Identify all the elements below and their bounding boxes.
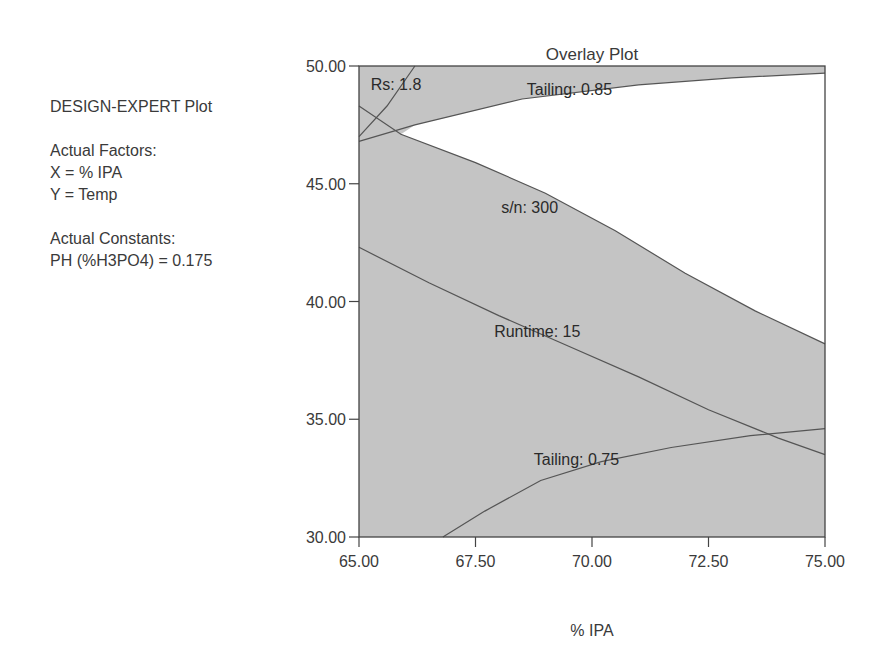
x-tick-label: 70.00	[572, 553, 612, 570]
x-axis-label: % IPA	[570, 622, 614, 639]
contour-label: Tailing: 0.85	[527, 81, 612, 98]
overlay-plot: Overlay Plot 30.0035.0040.0045.0050.0065…	[0, 0, 891, 664]
x-tick-label: 75.00	[805, 553, 845, 570]
contour-label: Tailing: 0.75	[534, 451, 619, 468]
contour-label: s/n: 300	[501, 199, 558, 216]
x-tick-label: 67.50	[455, 553, 495, 570]
y-tick-label: 30.00	[306, 529, 346, 546]
x-tick-label: 72.50	[688, 553, 728, 570]
chart-title: Overlay Plot	[546, 45, 639, 64]
y-tick-label: 50.00	[306, 58, 346, 75]
x-tick-label: 65.00	[339, 553, 379, 570]
y-tick-label: 35.00	[306, 411, 346, 428]
contour-label: Rs: 1.8	[371, 76, 422, 93]
y-tick-label: 40.00	[306, 294, 346, 311]
y-tick-label: 45.00	[306, 176, 346, 193]
contour-label: Runtime: 15	[494, 323, 580, 340]
